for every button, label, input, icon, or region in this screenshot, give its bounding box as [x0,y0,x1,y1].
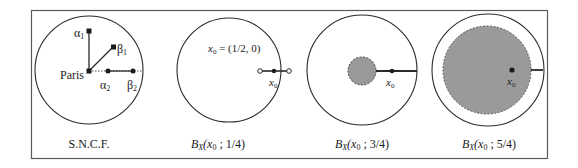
x0-label: x0 [268,76,278,90]
panel-ball-1-4: x0 x0 = (1/2, 0) BX(x0 ; 1/4) [177,18,291,152]
shaded-disk [348,57,376,85]
beta2-label: β2 [127,78,137,93]
caption-ball-5-4: BX(x0 ; 5/4) [462,137,516,152]
beta1-point [111,45,116,50]
alpha2-point [106,69,111,74]
paris-point [87,69,92,74]
paris-label: Paris [60,68,84,82]
caption-ball-1-4: BX(x0 ; 1/4) [191,137,245,152]
alpha2-label: α2 [100,78,110,93]
panel-sncf: Paris α1 β1 α2 β2 S.N.C.F. [35,16,143,151]
x0-label: x0 [385,76,395,90]
x0-definition: x0 = (1/2, 0) [207,42,261,56]
unit-circle [177,18,281,122]
beta1-label: β1 [117,42,127,57]
open-endpoint-left [258,69,263,74]
alpha1-label: α1 [74,26,84,41]
x0-point [390,69,395,74]
segment-paris-beta1 [89,47,113,71]
x0-point [272,69,276,73]
sncf-metric-balls-figure: Paris α1 β1 α2 β2 S.N.C.F. x0 x0 = (1/2,… [0,0,578,168]
caption-ball-3-4: BX(x0 ; 3/4) [335,137,389,152]
panel-ball-3-4: x0 BX(x0 ; 3/4) [307,15,417,152]
shaded-disk [443,26,531,114]
panel-ball-5-4: x0 BX(x0 ; 5/4) [432,14,544,152]
open-endpoint-right [287,69,292,74]
beta2-point [131,69,136,74]
caption-sncf: S.N.C.F. [68,137,109,151]
alpha1-point [87,29,92,34]
x0-point [509,67,514,72]
